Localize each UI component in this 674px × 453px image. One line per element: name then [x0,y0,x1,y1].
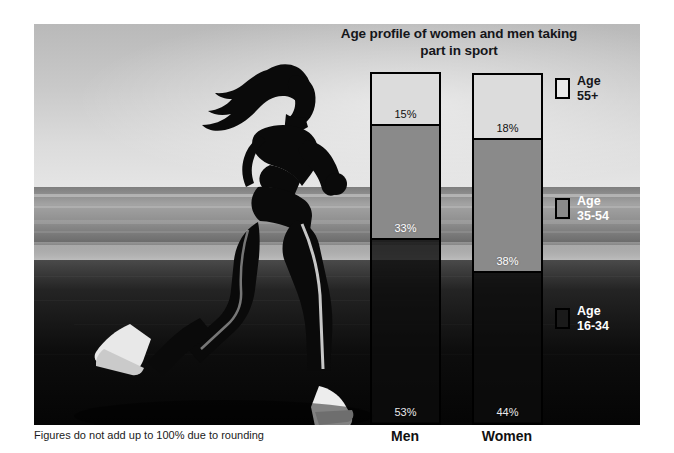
legend-label: Age 55+ [577,74,601,104]
segment-value-label: 33% [394,222,416,238]
legend-swatch-icon [555,198,570,219]
infographic-root: Age profile of women and men taking part… [0,0,674,453]
segment-value-label: 38% [496,255,518,271]
legend-swatch-icon [555,308,570,329]
legend-label: Age 16-34 [577,304,609,334]
legend-item-age-55-plus[interactable]: Age 55+ [555,74,601,104]
segment-value-label: 15% [394,108,416,124]
segment-women-age-55-plus[interactable]: 18% [474,75,541,140]
chart-title: Age profile of women and men taking part… [340,26,578,60]
footnote: Figures do not add up to 100% due to rou… [34,429,264,441]
bar-label-women: Women [452,428,562,444]
segment-value-label: 18% [496,122,518,138]
segment-women-age-35-54[interactable]: 38% [474,140,541,273]
segment-men-age-35-54[interactable]: 33% [372,126,439,240]
legend-label: Age 35-54 [577,194,609,224]
legend-item-age-35-54[interactable]: Age 35-54 [555,194,609,224]
stacked-bar-chart: Age profile of women and men taking part… [0,0,674,453]
bar-label-men: Men [350,428,460,444]
bar-women[interactable]: 18% 38% 44% [472,73,543,425]
segment-men-age-55-plus[interactable]: 15% [372,74,439,126]
bar-men[interactable]: 15% 33% 53% [370,72,441,425]
segment-women-age-16-34[interactable]: 44% [474,273,541,422]
legend-swatch-icon [555,78,570,99]
segment-value-label: 44% [496,406,518,422]
segment-men-age-16-34[interactable]: 53% [372,240,439,422]
legend-item-age-16-34[interactable]: Age 16-34 [555,304,609,334]
segment-value-label: 53% [394,406,416,422]
